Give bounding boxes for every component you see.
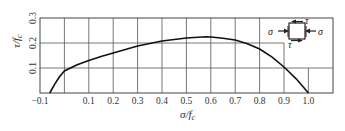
x-tick-labels: −0.10.10.20.30.40.50.60.70.80.91.0 xyxy=(31,96,314,106)
x-tick-label: 0.2 xyxy=(107,96,119,106)
y-tick-labels: 0.10.20.3 xyxy=(28,12,38,74)
x-tick-label: 0.5 xyxy=(180,96,192,106)
tau-bottom-label: τ xyxy=(288,39,292,50)
x-tick-label: −0.1 xyxy=(31,96,48,106)
x-tick-label: 0.9 xyxy=(278,96,290,106)
y-axis-label: τ/fc xyxy=(10,34,24,48)
element-square xyxy=(289,23,305,39)
stress-envelope-chart: σ σ τ τ −0.10.10.20.30.40.50.60.70.80.91… xyxy=(0,0,345,131)
y-tick-label: 0.2 xyxy=(28,37,38,49)
x-tick-label: 0.6 xyxy=(205,96,217,106)
x-tick-label: 1.0 xyxy=(302,96,314,106)
x-tick-label: 0.7 xyxy=(229,96,241,106)
x-axis-label: σ/fc xyxy=(180,108,196,122)
x-tick-label: 0.1 xyxy=(83,96,95,106)
y-tick-label: 0.1 xyxy=(28,62,38,74)
x-tick-label: 0.3 xyxy=(132,96,144,106)
tau-top-label: τ xyxy=(305,15,309,26)
y-tick-label: 0.3 xyxy=(28,12,38,24)
stress-element-inset: σ σ τ τ xyxy=(262,15,332,50)
x-tick-label: 0.4 xyxy=(156,96,168,106)
x-tick-label: 0.8 xyxy=(254,96,266,106)
